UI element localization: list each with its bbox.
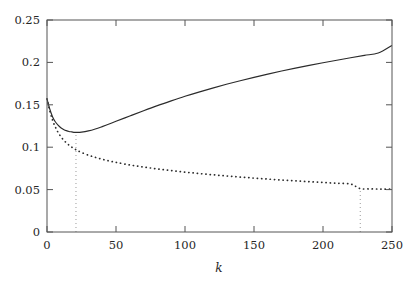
series-solid-curve xyxy=(47,45,392,132)
y-tick-label-5: 0.25 xyxy=(14,13,40,27)
y-axis-tick-labels: 00.050.10.150.20.25 xyxy=(14,13,40,239)
series-dotted-curve xyxy=(47,99,392,189)
y-tick-label-4: 0.2 xyxy=(22,55,40,69)
plot-frame xyxy=(47,20,392,232)
y-tick-label-1: 0.05 xyxy=(14,183,40,197)
y-tick-label-0: 0 xyxy=(33,225,40,239)
x-tick-label-5: 250 xyxy=(381,238,403,252)
chart-canvas: 00.050.10.150.20.25 050100150200250 k xyxy=(0,0,414,283)
y-tick-label-2: 0.1 xyxy=(22,140,40,154)
tick-marks xyxy=(47,20,392,232)
x-tick-label-0: 0 xyxy=(43,238,50,252)
y-tick-label-3: 0.15 xyxy=(14,98,40,112)
x-tick-label-3: 150 xyxy=(243,238,265,252)
x-tick-label-1: 50 xyxy=(109,238,124,252)
x-axis-tick-labels: 050100150200250 xyxy=(43,238,403,252)
chart-figure: 00.050.10.150.20.25 050100150200250 k xyxy=(0,0,414,283)
plot-border xyxy=(47,20,392,232)
x-axis-title: k xyxy=(215,261,222,275)
x-tick-label-2: 100 xyxy=(174,238,196,252)
x-tick-label-4: 200 xyxy=(312,238,334,252)
data-curves xyxy=(47,45,392,189)
